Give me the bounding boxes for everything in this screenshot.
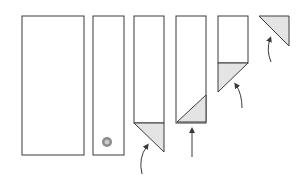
step-4-diagonal-fold [176,16,206,157]
flower-marker-icon [102,137,112,147]
curved-arrow-icon [236,85,242,108]
step-6-final-triangle [259,16,289,62]
diagram-canvas [0,0,299,182]
step-5-triangle-fold [218,16,248,108]
step-3-corner-fold [134,16,164,174]
folding-diagram [0,0,299,182]
curved-arrow-icon [268,39,271,62]
step-2-narrow-strip [93,16,124,155]
step-1-wide-rectangle [22,16,84,155]
curved-arrow-icon [141,146,147,174]
